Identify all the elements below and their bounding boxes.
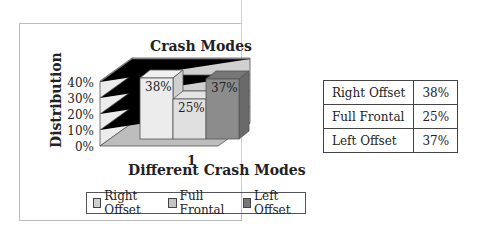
y-tick: 30% [64, 92, 94, 106]
chart-legend: Right Offset Full Frontal Left Offset [86, 192, 306, 214]
y-tick: 10% [64, 124, 94, 138]
table-cell-value: 25% [414, 105, 458, 129]
table-cell-value: 37% [414, 129, 458, 153]
table-cell-label: Full Frontal [324, 105, 414, 129]
bar-label-full-frontal: 25% [178, 101, 205, 115]
legend-swatch-icon [168, 198, 176, 208]
legend-item: Right Offset [93, 189, 162, 217]
legend-swatch-icon [243, 198, 251, 208]
table-cell-label: Left Offset [324, 129, 414, 153]
table-cell-label: Right Offset [324, 81, 414, 105]
table-cell-value: 38% [414, 81, 458, 105]
bar-label-right-offset: 38% [145, 80, 172, 94]
legend-item: Full Frontal [168, 189, 236, 217]
table-row: Full Frontal 25% [324, 105, 458, 129]
legend-label: Left Offset [254, 189, 305, 217]
y-tick: 40% [64, 76, 94, 90]
table-row: Right Offset 38% [324, 81, 458, 105]
y-tick: 0% [64, 140, 94, 154]
chart-title: Crash Modes [150, 38, 252, 54]
y-axis-label: Distribution [48, 52, 64, 148]
legend-swatch-icon [93, 198, 101, 208]
x-axis-label: Different Crash Modes [128, 162, 306, 178]
legend-label: Right Offset [104, 189, 162, 217]
table-row: Left Offset 37% [324, 129, 458, 153]
bar-label-left-offset: 37% [211, 81, 238, 95]
y-tick: 20% [64, 108, 94, 122]
legend-label: Full Frontal [180, 189, 237, 217]
data-table: Right Offset 38% Full Frontal 25% Left O… [323, 80, 458, 153]
legend-item: Left Offset [243, 189, 305, 217]
